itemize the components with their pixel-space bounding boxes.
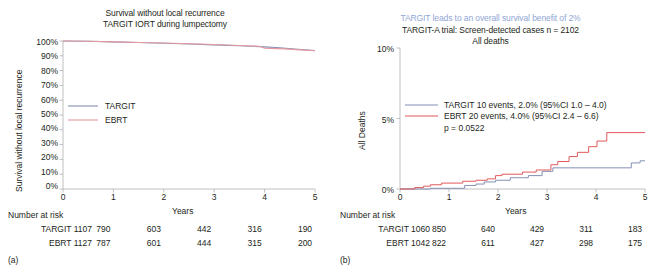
panel-a-ytick-100: 100% — [22, 37, 58, 47]
panel-a-risk-ebrt-4: 315 — [245, 238, 265, 248]
panel-b-pvalue: p = 0.0522 — [444, 123, 484, 133]
panel-b-risk-targit-3: 429 — [527, 224, 547, 234]
panel-a-risk-row-label-ebrt: EBRT 1127 — [0, 238, 92, 248]
panel-a-risk-targit-1: 790 — [93, 224, 113, 234]
panel-b-risk-row-label-targit: TARGIT 1060 — [330, 224, 430, 234]
panel-a-risk-ebrt-3: 444 — [194, 238, 214, 248]
panel-b-xtick-5: 5 — [635, 192, 651, 202]
panel-b-xtick-1: 1 — [439, 192, 459, 202]
panel-a-risk-targit-4: 316 — [245, 224, 265, 234]
panel-a-ytick-80: 80% — [22, 66, 58, 76]
panel-a-ytick-70: 70% — [22, 80, 58, 90]
panel-a-xtick-1: 1 — [103, 192, 123, 202]
panel-a-risk-row-label-targit: TARGIT 1107 — [0, 224, 92, 234]
panel-b-ytick-5: 5% — [364, 115, 394, 125]
panel-b-legend-label-ebrt: EBRT 20 events, 4.0% (95%CI 2.4 – 6.6) — [444, 111, 599, 121]
panel-b-risk-title: Number at risk — [340, 210, 395, 220]
panel-b-xtick-0: 0 — [390, 192, 410, 202]
panel-a-legend-line-targit — [68, 105, 98, 107]
panel-a-subtitle: TARGIT IORT during lumpectomy — [0, 19, 330, 30]
panel-a-risk-title: Number at risk — [8, 210, 63, 220]
panel-a-xtick-3: 3 — [204, 192, 224, 202]
panel-a-ytick-50: 50% — [22, 109, 58, 119]
panel-b-risk-ebrt-3: 427 — [527, 238, 547, 248]
panel-a-risk-ebrt-1: 787 — [93, 238, 113, 248]
panel-b-risk-row-label-ebrt: EBRT 1042 — [330, 238, 430, 248]
panel-b-xtick-4: 4 — [586, 192, 606, 202]
panel-a-ytick-10: 10% — [22, 167, 58, 177]
panel-b-risk-ebrt-5: 175 — [625, 238, 645, 248]
panel-a-ytick-20: 20% — [22, 152, 58, 162]
panel-a-legend-line-ebrt — [68, 119, 98, 121]
panel-a: Survival without local recurrence TARGIT… — [0, 0, 330, 278]
panel-b-headline: TARGIT leads to an overall survival bene… — [330, 13, 651, 24]
panel-b: TARGIT leads to an overall survival bene… — [330, 0, 651, 278]
panel-a-legend-label-targit: TARGIT — [105, 101, 136, 111]
panel-b-xtick-3: 3 — [537, 192, 557, 202]
panel-b-risk-targit-4: 311 — [576, 224, 596, 234]
panel-a-xtick-4: 4 — [255, 192, 275, 202]
panel-a-xlabel: Years — [172, 206, 193, 216]
panel-a-ytick-90: 90% — [22, 51, 58, 61]
panel-a-risk-ebrt-5: 200 — [295, 238, 315, 248]
panel-a-ytick-40: 40% — [22, 123, 58, 133]
panel-a-ytick-30: 30% — [22, 138, 58, 148]
panel-b-risk-targit-2: 640 — [478, 224, 498, 234]
panel-a-plot — [63, 41, 315, 189]
panel-b-tag: (b) — [340, 255, 350, 265]
panel-b-risk-ebrt-4: 298 — [576, 238, 596, 248]
panel-b-risk-targit-5: 183 — [625, 224, 645, 234]
panel-b-risk-ebrt-2: 611 — [478, 238, 498, 248]
panel-a-ytick-60: 60% — [22, 95, 58, 105]
panel-a-title: Survival without local recurrence — [0, 8, 330, 19]
panel-b-legend-line-targit — [405, 104, 438, 106]
page-bottom-fragment — [14, 269, 16, 276]
panel-a-tag: (a) — [8, 255, 18, 265]
panel-a-xtick-0: 0 — [53, 192, 73, 202]
panel-a-legend-label-ebrt: EBRT — [105, 115, 128, 125]
panel-a-xtick-2: 2 — [154, 192, 174, 202]
panel-b-legend-label-targit: TARGIT 10 events, 2.0% (95%CI 1.0 – 4.0) — [444, 100, 607, 110]
panel-a-risk-targit-2: 603 — [144, 224, 164, 234]
panel-a-risk-targit-3: 442 — [194, 224, 214, 234]
panel-b-title: TARGIT-A trial: Screen-detected cases n … — [330, 25, 651, 36]
panel-a-ytick-0: 0% — [22, 181, 58, 191]
panel-a-xtick-5: 5 — [305, 192, 325, 202]
panel-b-risk-targit-1: 850 — [429, 224, 449, 234]
panel-b-risk-ebrt-1: 822 — [429, 238, 449, 248]
figure-container: Survival without local recurrence TARGIT… — [0, 0, 651, 278]
panel-b-xtick-2: 2 — [488, 192, 508, 202]
panel-b-legend-line-ebrt — [405, 115, 438, 117]
panel-b-ytick-10: 10% — [364, 44, 394, 54]
panel-a-risk-ebrt-2: 601 — [144, 238, 164, 248]
panel-b-xlabel: Years — [505, 206, 526, 216]
panel-a-risk-targit-5: 190 — [295, 224, 315, 234]
